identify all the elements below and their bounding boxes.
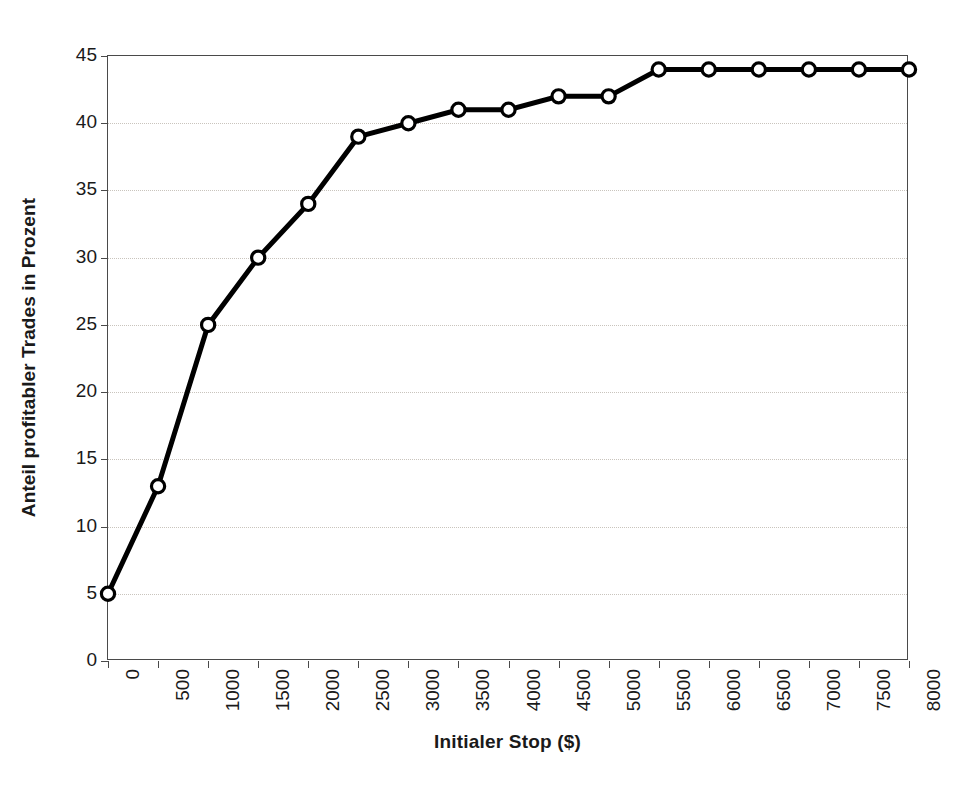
data-point bbox=[902, 63, 915, 76]
x-tick-mark bbox=[859, 661, 860, 668]
x-axis-title: Initialer Stop ($) bbox=[107, 731, 908, 753]
x-tick-mark bbox=[759, 661, 760, 668]
x-tick-mark bbox=[258, 661, 259, 668]
x-tick-label: 8000 bbox=[924, 669, 943, 759]
data-point bbox=[452, 103, 465, 116]
data-series bbox=[108, 56, 909, 661]
x-tick-mark bbox=[559, 661, 560, 668]
y-tick-label: 25 bbox=[53, 314, 97, 333]
y-tick-label: 35 bbox=[53, 179, 97, 198]
y-tick-mark bbox=[101, 56, 108, 57]
grid-line bbox=[108, 527, 907, 528]
x-tick-mark bbox=[509, 661, 510, 668]
y-tick-mark bbox=[101, 325, 108, 326]
data-point bbox=[302, 197, 315, 210]
y-tick-label: 30 bbox=[53, 247, 97, 266]
data-point bbox=[502, 103, 515, 116]
data-point bbox=[151, 480, 164, 493]
x-tick-mark bbox=[308, 661, 309, 668]
plot-area bbox=[107, 55, 908, 660]
x-tick-mark bbox=[408, 661, 409, 668]
y-tick-mark bbox=[101, 527, 108, 528]
x-tick-mark bbox=[108, 661, 109, 668]
y-tick-label: 40 bbox=[53, 112, 97, 131]
y-tick-label: 5 bbox=[53, 583, 97, 602]
y-tick-mark bbox=[101, 661, 108, 662]
data-point bbox=[852, 63, 865, 76]
x-tick-mark bbox=[358, 661, 359, 668]
grid-line bbox=[108, 258, 907, 259]
data-point bbox=[602, 90, 615, 103]
data-point bbox=[702, 63, 715, 76]
y-axis-title-text: Anteil profitabler Trades in Prozent bbox=[18, 198, 40, 517]
y-tick-mark bbox=[101, 190, 108, 191]
y-tick-label: 20 bbox=[53, 381, 97, 400]
grid-line bbox=[108, 123, 907, 124]
y-tick-label: 15 bbox=[53, 448, 97, 467]
x-tick-mark bbox=[909, 661, 910, 668]
grid-line bbox=[108, 325, 907, 326]
y-tick-mark bbox=[101, 123, 108, 124]
grid-line bbox=[108, 594, 907, 595]
y-axis-title: Anteil profitabler Trades in Prozent bbox=[0, 0, 58, 791]
y-tick-label: 0 bbox=[53, 650, 97, 669]
y-tick-mark bbox=[101, 392, 108, 393]
series-line bbox=[108, 69, 909, 593]
y-tick-mark bbox=[101, 459, 108, 460]
data-point bbox=[352, 130, 365, 143]
x-tick-mark bbox=[659, 661, 660, 668]
data-point bbox=[752, 63, 765, 76]
x-tick-mark bbox=[158, 661, 159, 668]
grid-line bbox=[108, 190, 907, 191]
data-point bbox=[802, 63, 815, 76]
y-tick-mark bbox=[101, 594, 108, 595]
x-tick-mark bbox=[458, 661, 459, 668]
x-tick-mark bbox=[809, 661, 810, 668]
series-markers bbox=[101, 63, 915, 601]
y-tick-label: 10 bbox=[53, 516, 97, 535]
grid-line bbox=[108, 459, 907, 460]
grid-line bbox=[108, 392, 907, 393]
data-point bbox=[552, 90, 565, 103]
x-tick-mark bbox=[609, 661, 610, 668]
x-tick-mark bbox=[709, 661, 710, 668]
y-tick-label: 45 bbox=[53, 45, 97, 64]
x-tick-mark bbox=[208, 661, 209, 668]
data-point bbox=[652, 63, 665, 76]
y-tick-mark bbox=[101, 258, 108, 259]
chart-figure: Anteil profitabler Trades in Prozent 051… bbox=[0, 0, 962, 791]
